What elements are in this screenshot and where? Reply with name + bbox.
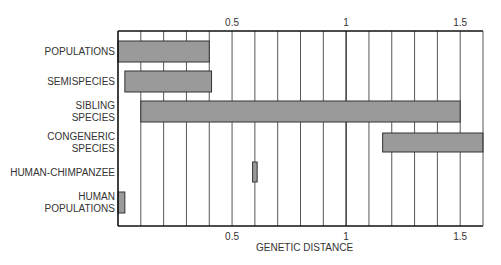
tick-label-bottom: 1 (343, 231, 349, 242)
tick-label-bottom: 0.5 (225, 231, 239, 242)
genetic-distance-chart: POPULATIONSSEMISPECIESSIBLINGSPECIESCONG… (0, 0, 501, 265)
category-label: POPULATIONS (45, 46, 116, 57)
range-bar (125, 71, 212, 92)
category-label: POPULATIONS (45, 203, 116, 214)
tick-label-top: 0.5 (225, 17, 239, 28)
category-label: SEMISPECIES (47, 76, 115, 87)
tick-label-bottom: 1.5 (453, 231, 467, 242)
tick-label-top: 1 (343, 17, 349, 28)
category-label: SPECIES (72, 143, 116, 154)
category-label: CONGENERIC (47, 131, 115, 142)
category-label: SIBLING (76, 100, 116, 111)
category-label: HUMAN (78, 191, 115, 202)
range-bar (118, 192, 125, 213)
bottom-tick-labels: 0.511.5 (225, 231, 467, 242)
category-labels: POPULATIONSSEMISPECIESSIBLINGSPECIESCONG… (10, 46, 115, 214)
range-bar (253, 162, 258, 182)
range-bar (383, 133, 483, 152)
range-bar (118, 41, 209, 62)
tick-label-top: 1.5 (453, 17, 467, 28)
range-bar (141, 101, 460, 122)
category-label: SPECIES (72, 112, 116, 123)
x-axis-label: GENETIC DISTANCE (256, 242, 353, 253)
top-tick-labels: 0.511.5 (225, 17, 467, 28)
category-label: HUMAN-CHIMPANZEE (10, 167, 115, 178)
